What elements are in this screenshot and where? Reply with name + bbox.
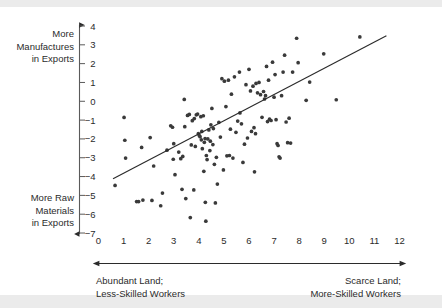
data-point: [227, 78, 231, 82]
data-point: [219, 135, 223, 139]
data-point: [187, 113, 191, 117]
data-point: [240, 122, 244, 126]
data-point: [150, 199, 154, 203]
data-point: [249, 89, 253, 93]
data-point: [280, 94, 284, 98]
scatter-plot: 43210−1−2−3−4−5−6−7 0123456789101112: [0, 0, 442, 308]
data-point: [296, 61, 300, 65]
data-point: [209, 139, 213, 143]
x-axis-tick-label: 2: [146, 235, 151, 246]
data-point: [209, 123, 213, 127]
data-point: [358, 35, 362, 39]
x-axis-right-caption: Scarce Land; More-Skilled Workers: [310, 275, 401, 300]
data-point: [229, 127, 233, 131]
data-point: [184, 197, 188, 201]
data-point: [214, 201, 218, 205]
data-point: [122, 116, 126, 120]
data-point: [123, 138, 127, 142]
data-point: [228, 154, 232, 158]
data-point: [192, 117, 196, 121]
data-point: [202, 140, 206, 144]
y-axis-tick-label: −7: [85, 228, 96, 239]
x-axis-tick-label: 5: [221, 235, 226, 246]
x-axis-tick-label: 8: [296, 235, 301, 246]
data-point: [260, 115, 264, 119]
data-point: [140, 146, 144, 150]
data-point: [198, 135, 202, 139]
regression-trendline: [113, 36, 386, 179]
data-point: [208, 149, 212, 153]
data-point: [113, 184, 117, 188]
data-point: [223, 79, 227, 83]
figure-root: More Manufactures in Exports More Raw Ma…: [0, 0, 442, 308]
data-point: [334, 98, 338, 102]
data-point: [203, 200, 207, 204]
y-axis-tick-label: −5: [85, 190, 96, 201]
data-point: [148, 136, 152, 140]
x-axis-tick-label: 12: [394, 235, 405, 246]
data-point: [230, 92, 234, 96]
y-axis-tick-label: 1: [90, 77, 95, 88]
data-point: [183, 125, 187, 129]
data-point: [182, 98, 186, 102]
data-point: [199, 138, 203, 142]
y-axis-tick-label: 2: [90, 58, 95, 69]
data-point: [161, 191, 165, 195]
data-point: [254, 132, 258, 136]
data-point: [196, 112, 200, 116]
data-point: [213, 162, 217, 166]
data-point: [180, 188, 184, 192]
x-axis-left-caption-line-2: Less-Skilled Workers: [96, 288, 185, 301]
data-point: [246, 136, 250, 140]
data-point: [276, 144, 280, 148]
data-point: [189, 143, 193, 147]
data-point: [250, 130, 254, 134]
y-axis-ticks: [80, 26, 86, 233]
data-point: [234, 130, 238, 134]
y-axis-tick-label: 0: [90, 96, 95, 107]
data-point: [193, 145, 197, 149]
data-point: [322, 52, 326, 56]
data-point: [171, 125, 175, 129]
data-point: [215, 156, 219, 160]
x-axis-tick-label: 11: [369, 235, 379, 246]
data-point: [253, 170, 257, 174]
data-point: [236, 119, 240, 123]
data-point: [308, 80, 312, 84]
data-point: [264, 94, 268, 98]
data-point: [192, 188, 196, 192]
x-axis-tick-label: 3: [171, 235, 176, 246]
y-axis: 43210−1−2−3−4−5−6−7: [80, 21, 96, 239]
data-point: [265, 65, 269, 69]
data-point: [244, 83, 248, 87]
data-point: [274, 118, 278, 122]
data-point: [152, 164, 156, 168]
y-axis-tick-label: −3: [85, 152, 96, 163]
data-point: [181, 155, 185, 159]
data-point: [304, 98, 308, 102]
data-point: [173, 173, 177, 177]
data-point: [222, 168, 226, 172]
data-point: [238, 70, 242, 74]
x-axis-tick-labels: 0123456789101112: [96, 235, 405, 246]
x-axis-tick-label: 6: [246, 235, 251, 246]
data-point: [267, 78, 271, 82]
x-axis-tick-label: 10: [344, 235, 355, 246]
data-point: [177, 150, 181, 154]
data-point: [251, 84, 255, 88]
y-axis-tick-label: −4: [85, 171, 96, 182]
data-point: [247, 67, 251, 71]
data-point: [262, 90, 266, 94]
data-point: [257, 81, 261, 85]
x-axis-right-caption-line-1: Scarce Land;: [310, 275, 401, 288]
y-axis-tick-label: −1: [85, 115, 96, 126]
x-axis-tick-label: 1: [121, 235, 126, 246]
x-axis-tick-label: 0: [96, 235, 101, 246]
data-point: [216, 182, 220, 186]
data-point: [201, 114, 205, 118]
x-axis-right-caption-line-2: More-Skilled Workers: [310, 288, 401, 301]
data-point: [159, 204, 163, 208]
data-point: [124, 156, 128, 160]
y-axis-tick-label: −2: [85, 133, 96, 144]
data-point: [295, 36, 299, 40]
